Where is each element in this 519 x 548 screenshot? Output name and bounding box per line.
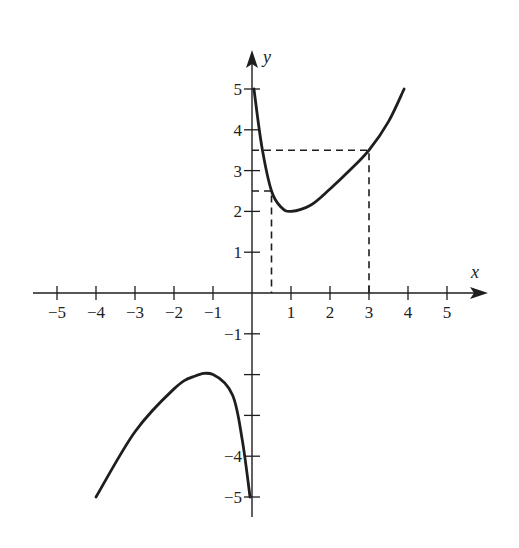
x-tick-label: 5 [443,303,452,322]
y-axis-label: y [261,47,271,67]
x-tick-label: 1 [287,303,296,322]
x-tick-label: 4 [404,303,413,322]
x-axis-label: x [470,262,479,282]
y-tick-label: −4 [224,447,243,466]
dashed-guide-line [252,150,369,293]
plot-area: −5−4−3−2−11234554321−1−4−5 x y [0,0,519,548]
x-tick-label: −5 [48,303,66,322]
axes [33,50,488,517]
y-tick-label: 2 [234,202,243,221]
x-tick-label: −1 [204,303,222,322]
y-tick-label: −1 [224,325,242,344]
y-tick-label: −5 [224,488,242,507]
y-tick-label: 3 [234,162,243,181]
y-tick-label: 1 [234,243,243,262]
y-tick-label: 4 [234,121,243,140]
x-tick-label: 3 [365,303,374,322]
x-tick-label: −2 [165,303,183,322]
x-tick-label: −3 [126,303,144,322]
function-graph: −5−4−3−2−11234554321−1−4−5 x y [0,0,519,548]
function-curve [96,373,250,497]
x-tick-label: −4 [87,303,106,322]
dashed-guide-line [252,191,272,293]
x-tick-label: 2 [326,303,335,322]
dashed-guides [252,150,369,293]
y-tick-label: 5 [234,80,243,99]
